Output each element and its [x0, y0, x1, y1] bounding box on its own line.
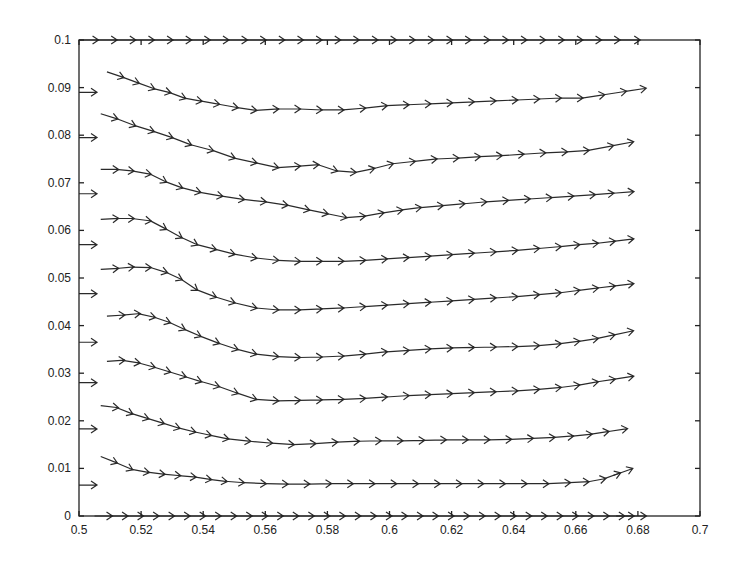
- arrow-icon: [79, 290, 97, 298]
- arrow-icon: [464, 198, 487, 206]
- streamline: [79, 88, 97, 96]
- arrow-icon: [178, 427, 195, 435]
- arrow-icon: [386, 254, 409, 262]
- arrow-icon: [386, 300, 409, 308]
- arrow-icon: [209, 477, 227, 485]
- arrow-icon: [613, 236, 634, 244]
- arrow-icon: [408, 391, 431, 399]
- y-tick-label: 0.01: [48, 461, 72, 475]
- arrow-icon: [358, 437, 381, 445]
- x-tick-label: 0.5: [71, 523, 88, 537]
- arrow-icon: [560, 94, 583, 102]
- arrow-icon: [107, 72, 124, 80]
- arrow-icon: [495, 387, 518, 395]
- arrow-icon: [414, 156, 437, 164]
- arrow-icon: [554, 432, 574, 440]
- arrow-icon: [321, 257, 344, 265]
- arrow-icon: [150, 267, 167, 275]
- arrow-icon: [278, 306, 301, 314]
- arrow-icon: [501, 151, 524, 159]
- arrow-icon: [265, 480, 288, 488]
- arrow-icon: [480, 152, 503, 160]
- arrow-icon: [489, 435, 512, 443]
- streamline: [101, 165, 634, 220]
- arrow-icon: [517, 291, 540, 299]
- arrow-icon: [598, 376, 616, 384]
- arrow-icon: [228, 437, 251, 445]
- arrow-icon: [122, 358, 140, 366]
- arrow-icon: [169, 92, 186, 100]
- arrow-icon: [299, 305, 322, 313]
- arrow-icon: [613, 280, 634, 288]
- arrow-icon: [321, 395, 344, 403]
- arrow-icon: [79, 241, 97, 249]
- arrow-icon: [582, 92, 605, 100]
- arrow-icon: [309, 480, 332, 488]
- arrow-icon: [408, 299, 431, 307]
- arrow-icon: [138, 362, 155, 370]
- arrow-icon: [570, 478, 590, 486]
- streamline: [101, 403, 628, 448]
- arrow-icon: [539, 340, 562, 348]
- arrow-icon: [598, 238, 616, 246]
- arrow-icon: [495, 96, 518, 104]
- y-tick-label: 0.08: [48, 128, 72, 142]
- arrow-icon: [237, 106, 257, 114]
- arrow-icon: [166, 229, 182, 239]
- arrow-icon: [197, 290, 217, 299]
- arrow-icon: [517, 95, 540, 103]
- arrow-icon: [365, 348, 388, 356]
- arrow-icon: [439, 480, 462, 488]
- arrow-icon: [598, 332, 616, 340]
- arrow-icon: [79, 88, 97, 96]
- x-tick-label: 0.64: [502, 523, 526, 537]
- arrow-icon: [402, 204, 422, 212]
- arrow-icon: [122, 77, 139, 85]
- arrow-icon: [213, 150, 236, 160]
- arrow-icon: [386, 392, 409, 400]
- arrow-icon: [256, 352, 279, 360]
- arrow-icon: [299, 396, 322, 404]
- arrow-icon: [299, 257, 322, 265]
- arrow-icon: [200, 191, 223, 199]
- arrow-icon: [216, 297, 236, 305]
- arrow-icon: [101, 457, 118, 465]
- x-tick-label: 0.52: [129, 523, 153, 537]
- arrow-icon: [163, 423, 180, 431]
- arrow-icon: [181, 187, 201, 195]
- streamline: [101, 457, 633, 489]
- arrow-icon: [365, 102, 388, 110]
- y-tick-label: 0.06: [48, 223, 72, 237]
- arrow-icon: [225, 478, 245, 486]
- arrow-icon: [436, 154, 459, 162]
- arrow-icon: [79, 190, 97, 198]
- arrow-icon: [138, 83, 155, 91]
- arrow-icon: [200, 99, 220, 107]
- arrow-icon: [473, 248, 496, 256]
- arrow-icon: [452, 98, 475, 106]
- arrow-icon: [278, 396, 301, 404]
- arrow-icon: [529, 194, 552, 202]
- streamline: [101, 215, 634, 266]
- arrow-icon: [200, 381, 220, 389]
- arrow-icon: [511, 435, 534, 443]
- arrow-icon: [154, 88, 171, 96]
- x-tick-label: 0.54: [192, 523, 216, 537]
- arrow-icon: [315, 439, 338, 447]
- streamline: [79, 379, 97, 387]
- arrow-icon: [352, 480, 375, 488]
- arrow-icon: [365, 393, 388, 401]
- arrow-icon: [299, 353, 322, 361]
- arrow-icon: [517, 386, 540, 394]
- arrow-icon: [613, 139, 634, 147]
- arrow-icon: [374, 480, 397, 488]
- arrow-icon: [107, 311, 125, 319]
- arrow-icon: [539, 384, 562, 392]
- arrow-icon: [365, 255, 388, 263]
- y-tick-label: 0.07: [48, 176, 72, 190]
- arrow-icon: [386, 347, 409, 355]
- arrow-streamlines: [79, 36, 646, 520]
- arrow-icon: [234, 158, 257, 166]
- arrow-icon: [216, 249, 236, 257]
- vector-field-chart: 0.50.520.540.560.580.60.620.640.660.680.…: [0, 0, 741, 573]
